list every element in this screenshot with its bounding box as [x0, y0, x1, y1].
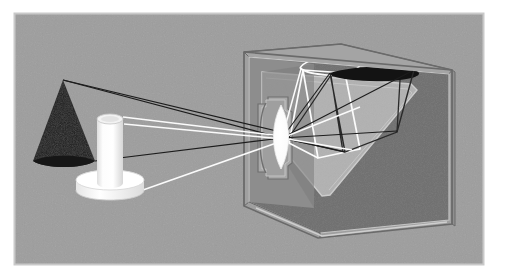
optics-diagram-svg [0, 0, 513, 279]
cylinder-body [97, 119, 123, 188]
white-cylinder-object [97, 114, 123, 188]
diagram-stage [0, 0, 513, 279]
cylinder-top-inner [101, 116, 119, 122]
